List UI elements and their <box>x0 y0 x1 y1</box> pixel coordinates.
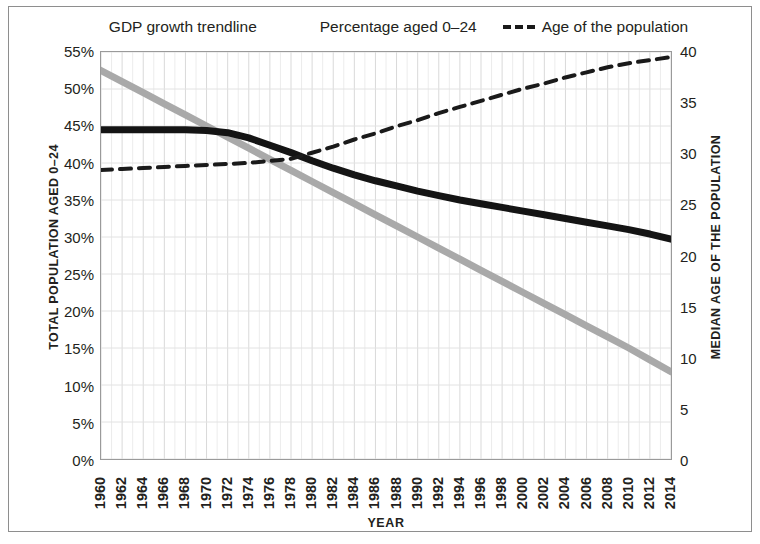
x-axis-tick-text: 1982 <box>325 468 339 518</box>
y-axis-right-title: MEDIAN AGE OF THE POPULATION <box>709 97 723 397</box>
x-axis-tick-label: 1984 <box>346 486 360 500</box>
y-axis-left-ticks: 0%5%10%15%20%25%30%35%40%45%50%55% <box>34 0 94 544</box>
x-axis-tick-text: 1960 <box>93 468 107 518</box>
x-axis-tick-text: 1996 <box>473 468 487 518</box>
x-axis-tick-text: 1990 <box>410 468 424 518</box>
x-axis-tick-text: 1978 <box>283 468 297 518</box>
x-axis-tick-label: 1988 <box>389 486 403 500</box>
x-axis-tick-label: 2006 <box>579 486 593 500</box>
y-axis-right-tick-label: 40 <box>680 44 714 59</box>
plot-area <box>100 51 672 460</box>
x-axis-tick-text: 2014 <box>663 468 677 518</box>
x-axis-tick-label: 1998 <box>494 486 508 500</box>
x-axis-tick-label: 2004 <box>557 486 571 500</box>
legend-label: Age of the population <box>542 18 689 36</box>
x-axis-tick-text: 1988 <box>389 468 403 518</box>
x-axis-tick-text: 2002 <box>536 468 550 518</box>
x-axis-tick-label: 2010 <box>621 486 635 500</box>
x-axis-tick-text: 1986 <box>367 468 381 518</box>
x-axis-tick-label: 2014 <box>663 486 677 500</box>
legend-item-age-of-the-population: Age of the population <box>503 18 689 36</box>
x-axis-tick-text: 1962 <box>114 468 128 518</box>
x-axis-tick-label: 1980 <box>304 486 318 500</box>
x-axis-tick-text: 2012 <box>642 468 656 518</box>
x-axis-tick-text: 2006 <box>579 468 593 518</box>
x-axis-tick-text: 1976 <box>262 468 276 518</box>
x-axis-tick-label: 1994 <box>452 486 466 500</box>
y-axis-left-tick-label: 5% <box>42 416 94 431</box>
legend-item-percentage-aged-0-24: Percentage aged 0–24 <box>283 18 477 36</box>
x-axis-tick-label: 1962 <box>114 486 128 500</box>
x-axis-tick-label: 2008 <box>600 486 614 500</box>
x-axis-tick-text: 2008 <box>600 468 614 518</box>
x-axis-tick-label: 1970 <box>199 486 213 500</box>
x-axis-tick-text: 2000 <box>515 468 529 518</box>
y-axis-left-title: TOTAL POPULATION AGED 0–24 <box>47 97 61 397</box>
x-axis-tick-text: 1998 <box>494 468 508 518</box>
black-thick-line-icon <box>283 23 313 31</box>
x-axis-tick-text: 1994 <box>452 468 466 518</box>
x-axis-tick-text: 1972 <box>220 468 234 518</box>
x-axis-tick-label: 1986 <box>367 486 381 500</box>
x-axis-tick-text: 1984 <box>346 468 360 518</box>
chart-legend: GDP growth trendline Percentage aged 0–2… <box>0 14 760 40</box>
x-axis-tick-label: 1974 <box>241 486 255 500</box>
x-axis-tick-label: 2002 <box>536 486 550 500</box>
x-axis-tick-label: 1978 <box>283 486 297 500</box>
x-axis-tick-label: 1960 <box>93 486 107 500</box>
x-axis-tick-label: 1968 <box>177 486 191 500</box>
black-dashed-line-icon <box>503 25 535 29</box>
legend-label: GDP growth trendline <box>109 18 257 36</box>
x-axis-tick-text: 1970 <box>199 468 213 518</box>
y-axis-left-tick-label: 0% <box>42 453 94 468</box>
x-axis-tick-text: 1966 <box>156 468 170 518</box>
x-axis-tick-label: 2000 <box>515 486 529 500</box>
x-axis-tick-text: 1974 <box>241 468 255 518</box>
x-axis-tick-label: 1976 <box>262 486 276 500</box>
x-axis-tick-label: 1966 <box>156 486 170 500</box>
x-axis-title: YEAR <box>100 516 672 530</box>
x-axis-tick-text: 1968 <box>177 468 191 518</box>
legend-item-gdp-growth-trendline: GDP growth trendline <box>72 18 257 36</box>
x-axis-tick-label: 1990 <box>410 486 424 500</box>
x-axis-tick-text: 1964 <box>135 468 149 518</box>
x-axis-tick-label: 1982 <box>325 486 339 500</box>
y-axis-left-tick-label: 50% <box>42 81 94 96</box>
plot-canvas <box>101 52 671 459</box>
x-axis-tick-text: 2010 <box>621 468 635 518</box>
legend-label: Percentage aged 0–24 <box>320 18 477 36</box>
x-axis-tick-label: 1996 <box>473 486 487 500</box>
x-axis-tick-label: 1964 <box>135 486 149 500</box>
y-axis-left-tick-label: 55% <box>42 44 94 59</box>
x-axis-tick-label: 1992 <box>431 486 445 500</box>
y-axis-right-tick-label: 5 <box>680 402 714 417</box>
x-axis-tick-text: 1980 <box>304 468 318 518</box>
x-axis-tick-label: 2012 <box>642 486 656 500</box>
x-axis-tick-text: 2004 <box>557 468 571 518</box>
chart-figure: GDP growth trendline Percentage aged 0–2… <box>0 0 760 544</box>
y-axis-right-tick-label: 0 <box>680 453 714 468</box>
x-axis-tick-label: 1972 <box>220 486 234 500</box>
x-axis-tick-text: 1992 <box>431 468 445 518</box>
x-axis-ticks: 1960196219641966196819701972197419761978… <box>100 464 672 520</box>
